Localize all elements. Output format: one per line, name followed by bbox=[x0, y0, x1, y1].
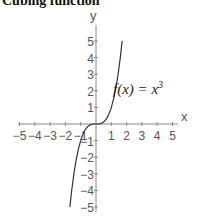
y-tick-label: 1 bbox=[87, 101, 94, 115]
y-axis-label: y bbox=[90, 8, 97, 23]
x-tick-label: 1 bbox=[108, 129, 115, 143]
x-tick-label: −4 bbox=[28, 129, 42, 143]
x-tick-label: 4 bbox=[154, 129, 161, 143]
x-tick-label: 2 bbox=[123, 129, 130, 143]
x-tick-label: −2 bbox=[59, 129, 73, 143]
annotation-exponent: 3 bbox=[157, 79, 163, 90]
axes bbox=[18, 25, 178, 212]
x-tick-label: −3 bbox=[43, 129, 57, 143]
function-annotation: f(x) = x3 bbox=[113, 79, 163, 98]
y-tick-label: 4 bbox=[87, 52, 94, 66]
y-tick-label: −3 bbox=[80, 168, 94, 182]
chart-canvas: −5−4−3−2−11234554321−1−2−3−4−5 x y f(x) … bbox=[0, 0, 197, 217]
y-tick-label: 5 bbox=[87, 35, 94, 49]
x-tick-label: 5 bbox=[169, 129, 176, 143]
y-tick-label: −4 bbox=[80, 184, 94, 198]
y-tick-label: 3 bbox=[87, 68, 94, 82]
tick-labels: −5−4−3−2−11234554321−1−2−3−4−5 bbox=[13, 35, 177, 215]
x-axis-label: x bbox=[181, 109, 188, 124]
y-tick-label: −2 bbox=[80, 151, 94, 165]
annotation-text: f(x) = x bbox=[113, 81, 158, 98]
x-tick-label: −5 bbox=[13, 129, 27, 143]
y-tick-label: 2 bbox=[87, 85, 94, 99]
y-tick-label: −5 bbox=[80, 201, 94, 215]
x-tick-label: 3 bbox=[139, 129, 146, 143]
